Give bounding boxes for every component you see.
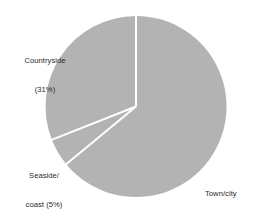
pie-label-countryside: Countryside (31%) [13,37,77,114]
pie-label-countryside-name: Countryside [13,56,77,66]
pie-label-seaside-coast: Seaside/ coast (5%) [12,152,76,213]
pie-label-seaside-coast-percent: coast (5%) [12,200,76,210]
pie-label-seaside-coast-name: Seaside/ [12,171,76,181]
pie-label-town-city-name: Town/city [205,189,255,199]
pie-label-countryside-percent: (31%) [13,85,77,95]
pie-label-town-city: Town/city (64%) [205,170,255,213]
pie-chart-figure: Countryside (31%) Seaside/ coast (5%) To… [0,0,258,213]
